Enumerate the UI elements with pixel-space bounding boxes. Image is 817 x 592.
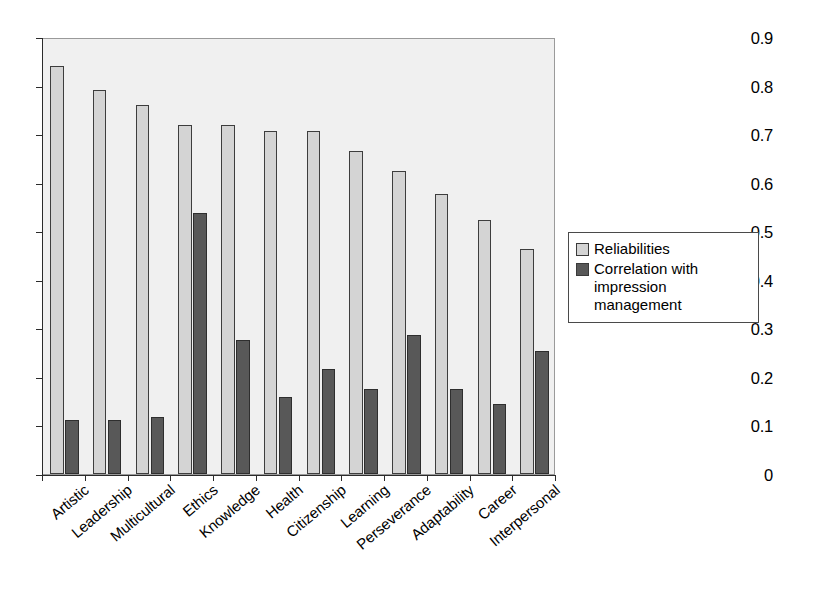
bar-group [43,39,86,474]
y-axis-tick [36,135,42,136]
y-axis-tick-label: 0.2 [751,370,773,387]
bar-reliability [349,151,363,474]
bar-correlation [322,369,336,474]
bar-group [129,39,172,474]
legend-item-correlation: Correlation with impression management [576,260,752,314]
x-axis-tick [512,475,513,481]
bar-reliability [435,194,449,474]
bar-correlation [151,417,165,474]
bar-correlation [108,420,122,474]
y-axis-tick [36,426,42,427]
x-axis-tick [555,475,556,481]
chart-legend: Reliabilities Correlation with impressio… [568,232,759,323]
y-axis-tick [36,329,42,330]
bar-group [385,39,428,474]
bar-correlation [493,404,507,474]
x-axis-tick [42,475,43,481]
y-axis-tick [36,232,42,233]
x-axis-tick [170,475,171,481]
bar-reliability [264,131,278,474]
bar-reliability [93,90,107,474]
bar-group [428,39,471,474]
plot-area [42,38,555,475]
x-axis-tick [213,475,214,481]
x-axis-tick [384,475,385,481]
legend-label-correlation: Correlation with impression management [594,260,752,314]
bar-reliability [307,131,321,474]
bar-group [471,39,514,474]
y-axis-tick-label: 0.8 [751,78,773,95]
bar-reliability [50,66,64,474]
x-axis-tick [85,475,86,481]
y-axis-tick [36,184,42,185]
x-axis-tick [341,475,342,481]
bar-group [257,39,300,474]
bar-correlation [407,335,421,474]
bar-correlation [535,351,549,474]
bar-reliability [178,125,192,474]
bar-group [513,39,556,474]
y-axis-tick-label: 0.1 [751,418,773,435]
bar-reliability [520,249,534,474]
bar-reliability [221,125,235,474]
x-axis-tick [256,475,257,481]
legend-swatch-dark [576,263,589,276]
bar-correlation [450,389,464,474]
bar-group [342,39,385,474]
bar-correlation [193,213,207,474]
x-axis-tick [299,475,300,481]
bar-correlation [364,389,378,474]
legend-label-reliabilities: Reliabilities [594,240,670,258]
bar-group [171,39,214,474]
y-axis-tick-label: 0.7 [751,127,773,144]
x-axis-tick [427,475,428,481]
y-axis-tick [36,281,42,282]
bar-chart-figure: 00.10.20.30.40.50.60.70.80.9 ArtisticLea… [0,0,817,592]
bar-correlation [65,420,79,474]
y-axis-tick [36,87,42,88]
y-axis-tick-label: 0.3 [751,321,773,338]
bar-reliability [136,105,150,474]
bar-reliability [392,171,406,474]
y-axis-tick [36,38,42,39]
x-axis-tick [128,475,129,481]
y-axis-tick-label: 0 [764,467,773,484]
legend-swatch-light [576,243,589,256]
bar-correlation [236,340,250,474]
y-axis-tick-label: 0.6 [751,175,773,192]
y-axis [36,38,43,475]
legend-item-reliabilities: Reliabilities [576,240,752,258]
bar-reliability [478,220,492,474]
x-axis-tick [470,475,471,481]
bar-group [300,39,343,474]
bar-correlation [279,397,293,474]
y-axis-tick [36,378,42,379]
bar-group [86,39,129,474]
bar-group [214,39,257,474]
y-axis-tick-label: 0.9 [751,30,773,47]
